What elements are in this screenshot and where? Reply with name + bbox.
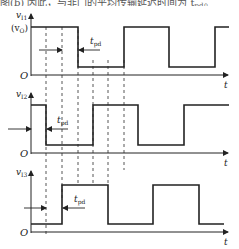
y-label: vI1 — [16, 10, 27, 21]
time-label: t — [224, 158, 228, 168]
delay-label: tpd — [90, 36, 101, 48]
plot-v-i3: vI3 O t tpd — [16, 167, 228, 247]
y-label: vI3 — [16, 167, 27, 178]
delay-label: tpd — [57, 115, 68, 127]
time-label: t — [224, 80, 228, 90]
origin-label: O — [20, 148, 28, 159]
waveform — [31, 185, 224, 224]
origin-label: O — [20, 70, 28, 81]
waveform — [31, 27, 229, 67]
delay-label: tpd — [74, 194, 85, 206]
level-label: (vO) — [11, 23, 28, 34]
plot-v-i1: vI1 (vO) O t tpd — [11, 10, 229, 90]
y-label: vI2 — [16, 89, 27, 100]
timing-diagram: vI1 (vO) O t tpd vI2 O t tpd vI3 O t tpd — [0, 0, 239, 249]
plot-v-i2: vI2 O t tpd — [8, 89, 229, 168]
origin-label: O — [20, 227, 28, 238]
time-label: t — [224, 237, 228, 247]
